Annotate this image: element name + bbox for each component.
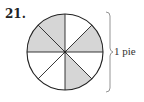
pie-slice-shaded xyxy=(65,52,92,90)
pie-center-dot xyxy=(64,51,67,54)
brace xyxy=(106,12,113,92)
brace-label: 1 pie xyxy=(114,45,136,57)
pie-slice-shaded xyxy=(65,25,103,52)
